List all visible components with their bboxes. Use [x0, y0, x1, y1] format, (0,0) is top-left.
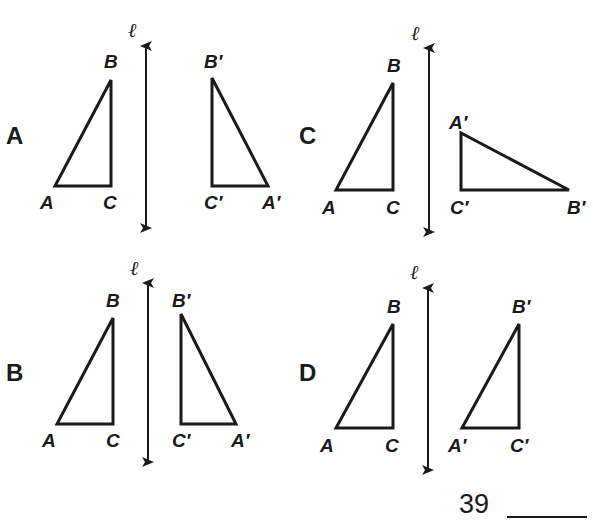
vertex-c-label: C — [385, 435, 399, 456]
choice-c-letter[interactable]: C — [299, 122, 316, 149]
choice-b-panel[interactable]: B B A C ℓ B′ C′ A′ — [6, 256, 251, 462]
image-triangle-a-prime-b-prime-c-prime — [181, 314, 236, 424]
choice-a-letter[interactable]: A — [6, 122, 23, 149]
choice-d-panel[interactable]: D B A C ℓ B′ A′ C′ — [299, 260, 532, 470]
vertex-b-label: B — [104, 51, 118, 72]
line-l-label: ℓ — [410, 260, 419, 284]
vertex-c-prime-label: C′ — [450, 197, 470, 218]
choice-a-panel[interactable]: A B A C ℓ B′ C′ A′ — [6, 18, 282, 228]
vertex-b-prime-label: B′ — [512, 296, 532, 317]
vertex-a-label: A — [319, 435, 334, 456]
original-triangle-abc — [55, 80, 111, 186]
vertex-a-label: A — [39, 192, 54, 213]
vertex-c-label: C — [386, 197, 400, 218]
vertex-b-prime-label: B′ — [567, 197, 587, 218]
line-l-label: ℓ — [411, 21, 420, 45]
question-number: 39 — [459, 489, 489, 519]
vertex-b-label: B — [387, 296, 401, 317]
vertex-b-prime-label: B′ — [172, 290, 192, 311]
vertex-a-label: A — [321, 197, 336, 218]
vertex-a-prime-label: A′ — [448, 112, 469, 133]
line-l-label: ℓ — [130, 256, 139, 280]
vertex-a-prime-label: A′ — [230, 430, 251, 451]
image-triangle-a-prime-b-prime-c-prime — [212, 78, 268, 186]
choice-b-letter[interactable]: B — [6, 359, 23, 386]
vertex-a-prime-label: A′ — [447, 435, 468, 456]
vertex-c-prime-label: C′ — [510, 435, 530, 456]
vertex-c-prime-label: C′ — [172, 430, 192, 451]
original-triangle-abc — [336, 324, 393, 428]
vertex-c-prime-label: C′ — [204, 192, 224, 213]
vertex-b-label: B — [106, 290, 120, 311]
original-triangle-abc — [57, 318, 113, 424]
choice-c-panel[interactable]: C B A C ℓ A′ C′ B′ — [299, 21, 587, 232]
line-l-label: ℓ — [128, 18, 137, 42]
vertex-a-label: A — [41, 430, 56, 451]
vertex-b-label: B — [387, 55, 401, 76]
image-triangle-a-prime-b-prime-c-prime — [461, 133, 569, 190]
figure-canvas: A B A C ℓ B′ C′ A′ C B A C ℓ A′ C′ B′ B … — [0, 0, 593, 523]
original-triangle-abc — [336, 83, 393, 190]
vertex-b-prime-label: B′ — [204, 51, 224, 72]
choice-d-letter[interactable]: D — [299, 359, 316, 386]
vertex-a-prime-label: A′ — [261, 192, 282, 213]
vertex-c-label: C — [103, 192, 117, 213]
image-triangle-a-prime-b-prime-c-prime — [462, 324, 519, 428]
vertex-c-label: C — [106, 430, 120, 451]
